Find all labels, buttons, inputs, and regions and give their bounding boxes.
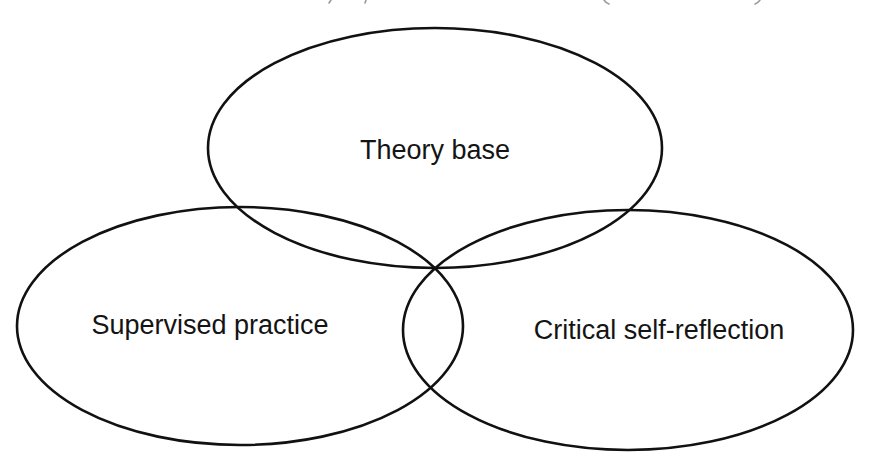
label-supervised-practice: Supervised practice [91,310,328,340]
label-theory-base: Theory base [360,135,510,165]
cropped-caption-fragments [329,0,760,4]
label-critical-self-reflection: Critical self-reflection [534,315,785,345]
venn-diagram: Theory base Supervised practice Critical… [0,0,871,471]
